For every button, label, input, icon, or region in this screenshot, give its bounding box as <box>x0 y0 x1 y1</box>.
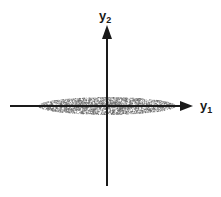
horizontal-axis-arrowhead <box>180 101 193 111</box>
vertical-axis-label: y2 <box>99 9 111 22</box>
plot-canvas <box>0 0 221 197</box>
scatter-cloud-figure: y2 y1 <box>0 0 221 197</box>
horizontal-axis-label-subscript: 1 <box>207 105 212 115</box>
horizontal-axis-label: y1 <box>200 99 212 112</box>
vertical-axis-arrowhead <box>102 25 112 39</box>
vertical-axis-label-subscript: 2 <box>106 15 111 25</box>
